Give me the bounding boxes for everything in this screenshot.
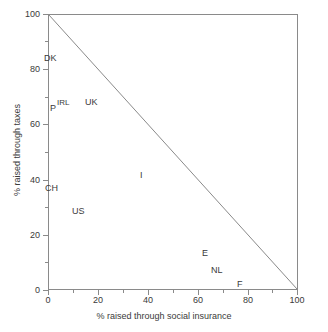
x-tick-label-40: 40 [133, 295, 163, 305]
y-axis-title: % raised through taxes [12, 70, 22, 230]
point-label-us: US [72, 206, 85, 216]
x-tick-minor-70 [223, 290, 224, 293]
point-label-ch: CH [45, 183, 58, 193]
plot-area [48, 14, 298, 290]
y-tick-label-0: 0 [10, 285, 40, 295]
x-tick-label-100: 100 [282, 295, 312, 305]
y-tick-20 [43, 235, 48, 236]
point-label-e: E [202, 248, 208, 258]
y-tick-100 [43, 14, 48, 15]
point-label-irl: IRL [57, 98, 69, 108]
point-label-nl: NL [211, 265, 223, 275]
x-tick-minor-10 [73, 290, 74, 293]
x-tick-minor-30 [123, 290, 124, 293]
y-tick-minor-70 [45, 97, 48, 98]
scatter-chart: 0 20 40 60 80 100 0 20 40 60 80 100 DK P… [0, 0, 328, 332]
x-tick-label-80: 80 [233, 295, 263, 305]
y-tick-40 [43, 180, 48, 181]
y-tick-minor-50 [45, 152, 48, 153]
y-tick-80 [43, 69, 48, 70]
x-tick-minor-50 [173, 290, 174, 293]
x-axis-title: % raised through social insurance [0, 311, 328, 321]
x-tick-minor-90 [272, 290, 273, 293]
y-tick-60 [43, 124, 48, 125]
x-tick-label-60: 60 [183, 295, 213, 305]
point-label-f: F [237, 279, 243, 289]
point-label-i: I [140, 170, 143, 180]
y-tick-minor-10 [45, 262, 48, 263]
y-tick-label-20: 20 [10, 230, 40, 240]
y-tick-0 [43, 290, 48, 291]
x-tick-label-20: 20 [83, 295, 113, 305]
y-tick-minor-30 [45, 207, 48, 208]
x-tick-label-0: 0 [33, 295, 63, 305]
point-label-dk: DK [44, 53, 57, 63]
point-label-p: P [50, 103, 56, 113]
y-tick-label-100: 100 [10, 9, 40, 19]
point-label-uk: UK [85, 97, 98, 107]
reference-line [49, 15, 297, 289]
y-tick-minor-90 [45, 41, 48, 42]
